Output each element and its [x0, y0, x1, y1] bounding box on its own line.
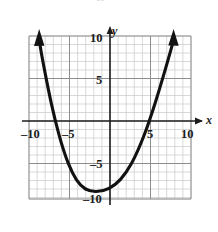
- x-tick-label--10: –10: [21, 127, 40, 142]
- x-axis-label: x: [206, 113, 212, 128]
- y-tick-label-5: 5: [96, 73, 102, 88]
- x-tick-label--5: –5: [62, 127, 75, 142]
- y-tick-label--5: –5: [90, 157, 103, 172]
- y-tick-label--10: –10: [83, 192, 102, 207]
- right-arm-arrowhead: [168, 29, 178, 46]
- parabola-curve: [34, 29, 179, 192]
- graph-figure: 10: [0, 0, 218, 232]
- y-axis-label: y: [112, 24, 117, 39]
- y-tick-label-10: 10: [90, 31, 103, 46]
- x-tick-label-10: 10: [181, 127, 194, 142]
- coordinate-plane-svg: [0, 0, 218, 232]
- x-axis-arrow: [195, 118, 203, 125]
- left-arm-arrowhead: [34, 29, 44, 46]
- x-tick-label-5: 5: [147, 127, 153, 142]
